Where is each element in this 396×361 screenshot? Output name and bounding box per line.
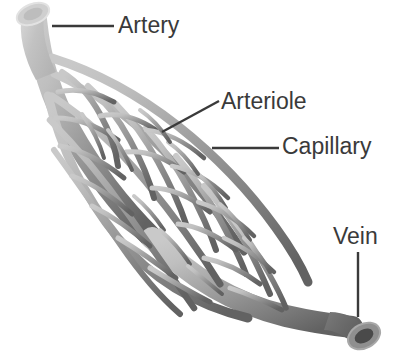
vein-label: Vein [333,225,378,248]
capillary-network-group [36,20,352,327]
vessel-network-illustration [0,0,396,361]
capillary-bed-diagram: Artery Arteriole Capillary Vein [0,0,396,361]
artery-label: Artery [118,14,179,37]
arteriole-label: Arteriole [221,90,307,113]
capillary-label: Capillary [282,135,371,158]
